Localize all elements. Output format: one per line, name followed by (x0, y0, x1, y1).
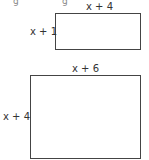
large-rect-height-label: x + 4 (3, 112, 30, 122)
cropped-glyph: g (62, 0, 68, 6)
small-rectangle (55, 13, 141, 50)
large-rect-width-label: x + 6 (72, 64, 99, 74)
large-rectangle (30, 75, 141, 159)
small-rect-height-label: x + 1 (30, 27, 57, 37)
cropped-glyph: g (13, 0, 19, 6)
small-rect-width-label: x + 4 (86, 2, 113, 12)
